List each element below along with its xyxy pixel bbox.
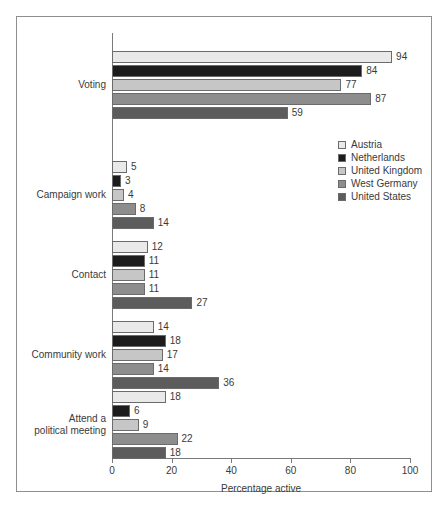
x-tick-mark [231,458,232,463]
bar[interactable] [112,419,139,431]
x-tick-mark [410,458,411,463]
bar[interactable] [112,405,130,417]
bar[interactable] [112,321,154,333]
bar[interactable] [112,363,154,375]
legend-swatch-icon [338,154,346,162]
bar-value-label: 77 [345,79,356,91]
bar[interactable] [112,175,121,187]
legend-swatch-icon [338,141,346,149]
bar[interactable] [112,255,145,267]
bar[interactable] [112,335,166,347]
bar-value-label: 14 [158,321,169,333]
x-tick-label: 0 [109,465,115,476]
bar-value-label: 18 [170,391,181,403]
category-label: Contact [11,269,106,281]
category-label: Voting [11,79,106,91]
bar[interactable] [112,189,124,201]
bar-value-label: 9 [143,419,149,431]
bar[interactable] [112,161,127,173]
bar-value-label: 4 [128,189,134,201]
bar[interactable] [112,241,148,253]
legend-swatch-icon [338,180,346,188]
x-tick-label: 60 [285,465,296,476]
bar-value-label: 11 [149,255,159,267]
bar-value-label: 84 [366,65,377,77]
legend-label: West Germany [351,177,418,190]
chart-frame: 020406080100 Voting9484778759Campaign wo… [16,16,432,492]
plot-area: 020406080100 Voting9484778759Campaign wo… [112,33,410,458]
bar[interactable] [112,93,371,105]
legend-label: Austria [351,138,382,151]
legend-item[interactable]: Austria [338,138,422,151]
x-tick-label: 80 [345,465,356,476]
legend-swatch-icon [338,167,346,175]
bar-value-label: 5 [131,161,137,173]
bar[interactable] [112,391,166,403]
bar-value-label: 18 [170,335,181,347]
bar[interactable] [112,79,341,91]
x-tick-mark [350,458,351,463]
bar-value-label: 8 [140,203,146,215]
bar[interactable] [112,447,166,459]
bar-value-label: 36 [223,377,234,389]
bar-value-label: 59 [292,107,303,119]
bar[interactable] [112,349,163,361]
category-label: Community work [11,349,106,361]
bar-value-label: 11 [149,283,159,295]
category-label: Campaign work [11,189,106,201]
bar[interactable] [112,269,145,281]
legend-swatch-icon [338,193,346,201]
bar-value-label: 14 [158,217,169,229]
legend-item[interactable]: United States [338,190,422,203]
legend-item[interactable]: United Kingdom [338,164,422,177]
x-axis-title: Percentage active [112,483,410,494]
legend-label: Netherlands [351,151,405,164]
x-tick-mark [291,458,292,463]
bar-value-label: 17 [167,349,178,361]
bar[interactable] [112,65,362,77]
bar[interactable] [112,283,145,295]
bar-value-label: 3 [125,175,131,187]
bar-value-label: 6 [134,405,140,417]
x-tick-label: 40 [226,465,237,476]
bar[interactable] [112,217,154,229]
bar[interactable] [112,433,178,445]
bar-value-label: 22 [182,433,193,445]
bar-value-label: 12 [152,241,163,253]
bar[interactable] [112,51,392,63]
bar-value-label: 87 [375,93,386,105]
legend-item[interactable]: West Germany [338,177,422,190]
x-tick-label: 100 [402,465,419,476]
bar-value-label: 27 [196,297,207,309]
bar[interactable] [112,107,288,119]
bar-value-label: 11 [149,269,159,281]
bar-value-label: 94 [396,51,407,63]
bar[interactable] [112,377,219,389]
legend-label: United Kingdom [351,164,422,177]
x-tick-label: 20 [166,465,177,476]
bar[interactable] [112,297,192,309]
legend-label: United States [351,190,411,203]
bar-value-label: 14 [158,363,169,375]
bar[interactable] [112,203,136,215]
bar-value-label: 18 [170,447,181,459]
legend-item[interactable]: Netherlands [338,151,422,164]
chart-legend: AustriaNetherlandsUnited KingdomWest Ger… [338,138,422,203]
category-label: Attend a political meeting [11,413,106,437]
